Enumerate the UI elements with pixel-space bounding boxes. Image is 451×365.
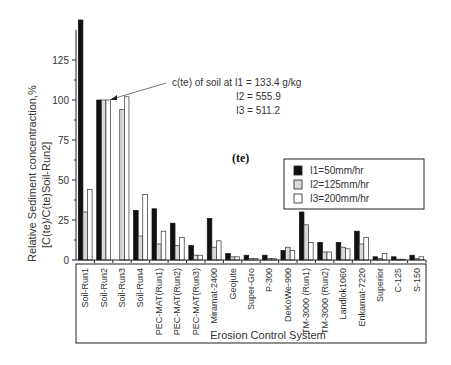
panel-label: (te)	[232, 151, 249, 165]
y-tick-label: 50	[58, 175, 70, 186]
legend-label: I1=50mm/hr	[310, 165, 364, 176]
y-tick-label: 25	[58, 215, 70, 226]
bar	[198, 255, 203, 260]
bar	[290, 250, 295, 260]
legend-swatch	[294, 194, 302, 203]
arrow-head-icon	[110, 95, 117, 100]
bar	[336, 242, 341, 260]
bar	[263, 255, 268, 260]
bar	[143, 194, 148, 260]
bar	[309, 242, 314, 260]
bar	[216, 241, 221, 260]
bar	[189, 246, 194, 260]
x-category-label: Soil-Run1	[80, 268, 90, 308]
x-category-label: Enkamat-7220	[357, 268, 367, 327]
x-category-label: Super-Gro	[246, 268, 256, 310]
bar	[193, 255, 198, 260]
bar	[170, 223, 175, 260]
bar	[299, 212, 304, 260]
legend-swatch	[294, 180, 302, 189]
annotation-line-3: I3 = 511.2	[236, 105, 280, 116]
annotation-line-2: I2 = 555.9	[236, 91, 281, 102]
x-category-label: P-300	[264, 268, 274, 292]
x-category-label: S-150	[412, 268, 422, 292]
x-category-label: TM-3000 (Run2)	[320, 268, 330, 334]
bar	[359, 244, 364, 260]
x-axis: Soil-Run1Soil-Run2Soil-Run3Soil-Run4PEC-…	[76, 260, 426, 335]
bar-chart: 0255075100125 Soil-Run1Soil-Run2Soil-Run…	[0, 0, 451, 365]
x-category-label: DeKoWe-900	[283, 268, 293, 322]
bar	[106, 100, 111, 260]
bar	[318, 242, 323, 260]
y-tick-label: 0	[63, 255, 69, 266]
bar	[382, 254, 387, 260]
legend-swatch	[294, 166, 302, 175]
bar	[88, 190, 93, 260]
bar	[286, 247, 291, 260]
bar	[101, 100, 106, 260]
y-axis: 0255075100125	[52, 30, 76, 266]
bar	[78, 20, 83, 260]
annotation-arrow	[112, 83, 166, 99]
x-category-label: Geojute	[228, 268, 238, 300]
x-category-label: Landlok1060	[338, 268, 348, 320]
x-category-label: PEC-MAT(Run2)	[172, 268, 182, 335]
x-category-label: Soil-Run3	[117, 268, 127, 308]
x-axis-title: Erosion Control System	[210, 329, 326, 341]
x-category-label: PEC-MAT(Run3)	[191, 268, 201, 335]
bar	[304, 225, 309, 260]
annotation-line-1: c(te) of soil at I1 = 133.4 g/kg	[172, 77, 301, 88]
bar	[157, 244, 162, 260]
bar	[161, 231, 166, 260]
legend: I1=50mm/hrI2=125mm/hrI3=200mm/hr	[284, 159, 424, 209]
annotation: c(te) of soil at I1 = 133.4 g/kg I2 = 55…	[110, 77, 301, 116]
bar	[244, 255, 249, 260]
x-category-label: Superior	[375, 268, 385, 302]
bar	[138, 236, 143, 260]
bar	[175, 246, 180, 260]
bar	[207, 218, 212, 260]
x-category-label: Soil-Run2	[99, 268, 109, 308]
bar	[355, 231, 360, 260]
bar	[180, 238, 185, 260]
bar	[212, 247, 217, 260]
bar-series	[78, 20, 423, 260]
bar	[83, 212, 88, 260]
bar	[327, 252, 332, 260]
y-tick-label: 100	[52, 95, 69, 106]
bar	[120, 110, 125, 260]
x-category-label: TM-3000 (Run1)	[301, 268, 311, 334]
bar	[152, 209, 157, 260]
bar	[341, 247, 346, 260]
legend-label: I2=125mm/hr	[310, 179, 370, 190]
bar	[364, 238, 369, 260]
x-category-label: PEC-MAT(Run1)	[154, 268, 164, 335]
x-category-label: Miramat-2400	[209, 268, 219, 324]
bar	[124, 97, 129, 260]
bar	[134, 210, 139, 260]
bar	[226, 254, 231, 260]
legend-label: I3=200mm/hr	[310, 193, 370, 204]
bar	[410, 255, 415, 260]
x-category-label: C-125	[393, 268, 403, 293]
bar	[345, 249, 350, 260]
bar	[281, 250, 286, 260]
bar	[97, 100, 102, 260]
y-tick-label: 75	[58, 135, 70, 146]
x-category-label: Soil-Run4	[135, 268, 145, 308]
y-axis-title: Relative Sediment concentraction,%	[26, 85, 38, 262]
y-axis-subtitle: [C(te)/C(te)Soil-Run2]	[40, 142, 52, 248]
y-tick-label: 125	[52, 55, 69, 66]
bar	[322, 252, 327, 260]
